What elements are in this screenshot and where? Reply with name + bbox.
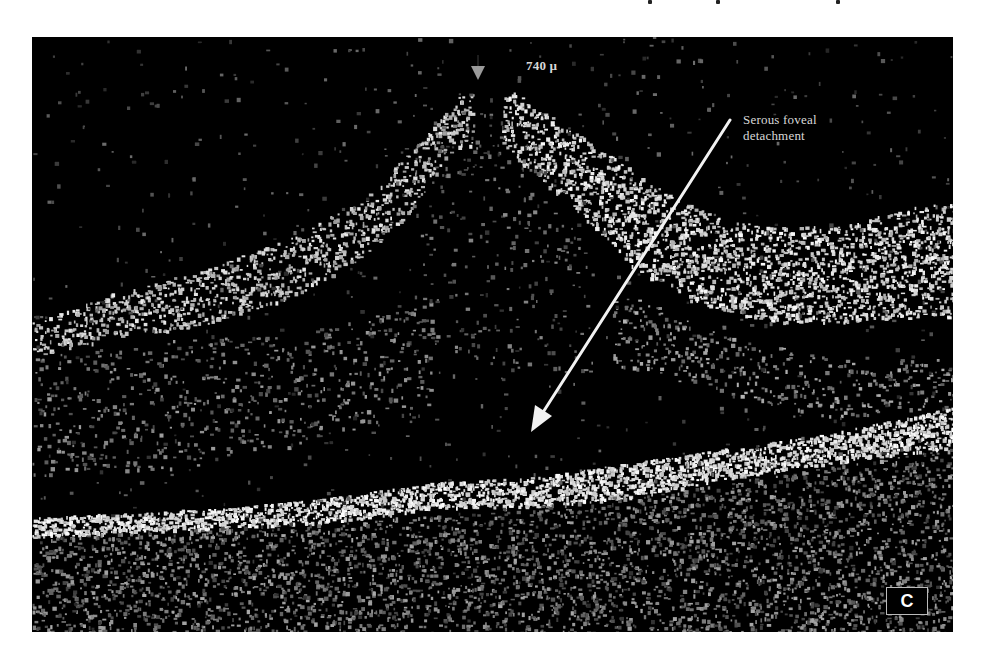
cutoff-previous-text-line — [0, 0, 981, 6]
serous-foveal-detachment-label: Serous foveal detachment — [743, 112, 883, 144]
text-descender — [648, 0, 652, 4]
annotation-line-2: detachment — [743, 128, 883, 144]
annotation-arrow-icon — [531, 120, 730, 432]
foveal-marker-icon — [471, 66, 485, 80]
panel-label-c: C — [886, 587, 928, 615]
text-descender — [716, 0, 720, 4]
annotation-line-1: Serous foveal — [743, 112, 883, 128]
thickness-measurement-label: 740 µ — [526, 58, 557, 74]
text-descender — [836, 0, 840, 4]
oct-scan-image: 740 µ Serous foveal detachment C — [32, 37, 953, 632]
